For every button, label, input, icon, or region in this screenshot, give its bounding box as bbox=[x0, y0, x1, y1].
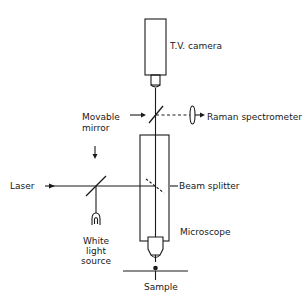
microscope-objective bbox=[148, 237, 163, 255]
light-bulb-icon bbox=[92, 213, 100, 225]
sample-point bbox=[153, 266, 158, 271]
tv-camera-lens bbox=[151, 75, 160, 85]
white-light-label-2: light bbox=[80, 246, 112, 256]
movable-mirror-label-2: mirror bbox=[82, 123, 110, 133]
tv-camera-label: T.V. camera bbox=[170, 41, 222, 51]
beam-splitter-label: Beam splitter bbox=[179, 181, 240, 191]
sample-label: Sample bbox=[144, 282, 178, 292]
microscope-label: Microscope bbox=[180, 227, 231, 237]
laser-label: Laser bbox=[10, 181, 34, 191]
tv-camera-body bbox=[145, 19, 166, 75]
spectrometer-lens bbox=[190, 106, 195, 124]
white-light-label-1: White bbox=[80, 236, 112, 246]
optical-diagram bbox=[0, 0, 308, 301]
raman-spectrometer-label: Raman spectrometer bbox=[207, 112, 302, 122]
white-light-label-3: source bbox=[80, 256, 112, 266]
movable-mirror-label-1: Movable bbox=[82, 112, 120, 122]
microscope-tube bbox=[140, 135, 169, 241]
